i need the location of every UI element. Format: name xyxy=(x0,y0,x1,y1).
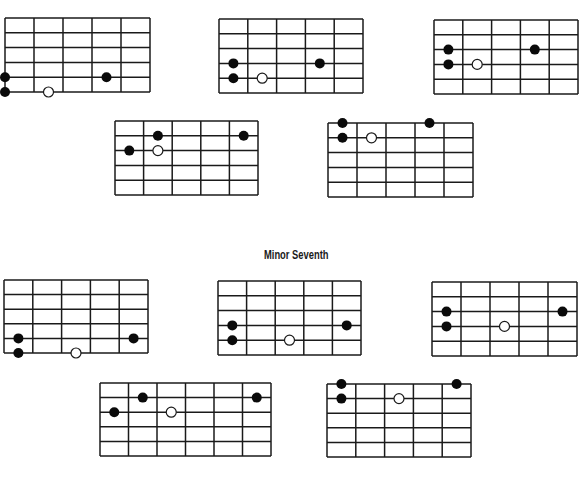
filled-dot-icon xyxy=(443,59,453,69)
filled-dot-icon xyxy=(442,307,452,317)
filled-dot-icon xyxy=(452,379,462,389)
filled-dot-icon xyxy=(425,118,435,128)
filled-dot-icon xyxy=(239,131,249,141)
filled-dot-icon xyxy=(102,72,112,82)
filled-dot-icon xyxy=(336,379,346,389)
filled-dot-icon xyxy=(338,118,348,128)
fretboard-diagram-10 xyxy=(327,384,471,457)
open-dot-icon xyxy=(257,73,267,83)
fretboard-diagram-5 xyxy=(328,123,473,197)
fretboard-diagram-4 xyxy=(115,121,258,195)
filled-dot-icon xyxy=(153,131,163,141)
filled-dot-icon xyxy=(443,45,453,55)
open-dot-icon xyxy=(500,321,510,331)
filled-dot-icon xyxy=(0,87,10,97)
open-dot-icon xyxy=(472,59,482,69)
fretboard-diagram-3 xyxy=(434,20,578,94)
fretboard-diagram-2 xyxy=(219,19,363,93)
filled-dot-icon xyxy=(227,320,237,330)
filled-dot-icon xyxy=(124,146,134,156)
section-title-minor-seventh: Minor Seventh xyxy=(264,248,328,262)
filled-dot-icon xyxy=(336,394,346,404)
filled-dot-icon xyxy=(315,58,325,68)
open-dot-icon xyxy=(153,146,163,156)
filled-dot-icon xyxy=(109,407,119,417)
filled-dot-icon xyxy=(252,393,262,403)
filled-dot-icon xyxy=(227,335,237,345)
filled-dot-icon xyxy=(138,393,148,403)
filled-dot-icon xyxy=(228,73,238,83)
fretboard-diagram-9 xyxy=(100,383,271,456)
chord-diagram-page: Minor Seventh xyxy=(0,0,584,500)
filled-dot-icon xyxy=(338,133,348,143)
filled-dot-icon xyxy=(0,72,10,82)
filled-dot-icon xyxy=(13,348,23,358)
open-dot-icon xyxy=(71,348,81,358)
filled-dot-icon xyxy=(558,307,568,317)
fretboard-diagram-8 xyxy=(432,282,577,356)
open-dot-icon xyxy=(44,87,54,97)
fretboard-diagram-6 xyxy=(4,280,148,353)
filled-dot-icon xyxy=(442,321,452,331)
filled-dot-icon xyxy=(129,333,139,343)
open-dot-icon xyxy=(394,394,404,404)
fretboard-diagram-1 xyxy=(5,18,150,92)
open-dot-icon xyxy=(166,407,176,417)
filled-dot-icon xyxy=(13,333,23,343)
open-dot-icon xyxy=(285,335,295,345)
filled-dot-icon xyxy=(530,45,540,55)
filled-dot-icon xyxy=(228,58,238,68)
open-dot-icon xyxy=(367,133,377,143)
fretboard-diagram-7 xyxy=(218,281,361,355)
filled-dot-icon xyxy=(342,320,352,330)
